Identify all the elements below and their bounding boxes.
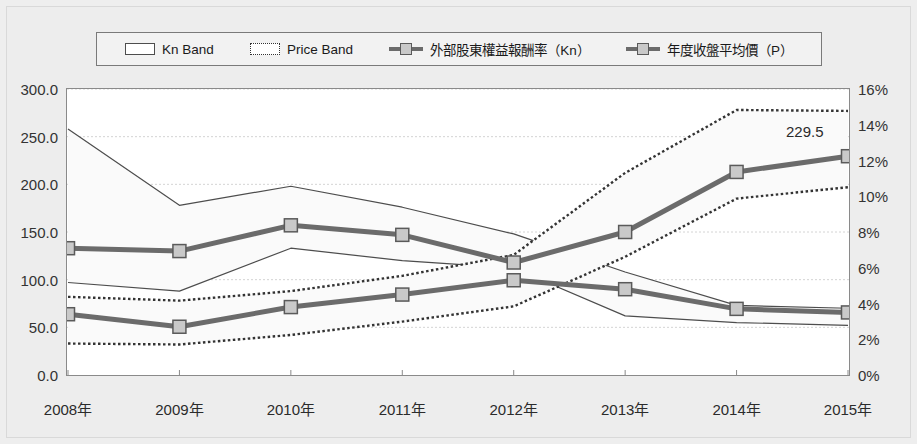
legend-label-avg-price: 年度收盤平均價（P） [667, 39, 793, 59]
line-marker-swatch-icon [389, 42, 423, 56]
kn-return-series-marker [396, 288, 409, 301]
avg-price-series-marker [173, 245, 186, 258]
avg-price-series-marker [507, 256, 520, 269]
legend-item-kn-band: Kn Band [125, 42, 214, 57]
y-axis-right-tick-label: 14% [858, 116, 906, 133]
avg-price-series-marker [284, 219, 297, 232]
x-axis-tick-label: 2008年 [13, 398, 123, 419]
kn-return-series-marker [619, 283, 632, 296]
x-axis-tick-label: 2009年 [124, 398, 234, 419]
avg-price-series-marker [67, 242, 75, 255]
x-axis-tick-label: 2010年 [236, 398, 346, 419]
y-axis-right-tick-label: 12% [858, 152, 906, 169]
kn-return-series-marker [173, 320, 186, 333]
y-axis-right-tick-label: 16% [858, 81, 906, 98]
y-axis-right-tick-label: 6% [858, 259, 906, 276]
plot-area [66, 88, 850, 376]
y-axis-left-tick-label: 50.0 [0, 319, 58, 336]
x-axis-tick-label: 2012年 [459, 398, 569, 419]
y-axis-left-tick-label: 300.0 [0, 81, 58, 98]
legend-item-kn-return: 外部股東權益報酬率（Kn） [389, 39, 590, 59]
y-axis-left-tick-label: 100.0 [0, 271, 58, 288]
data-value-annotation: 229.5 [786, 123, 824, 140]
y-axis-right-tick-label: 2% [858, 331, 906, 348]
kn-return-series-marker [842, 306, 850, 319]
band-solid-swatch-icon [125, 43, 155, 55]
chart-legend: Kn Band Price Band 外部股東權益報酬率（Kn） 年度收盤平均價… [96, 32, 822, 66]
kn-return-series-marker [507, 274, 520, 287]
legend-item-avg-price: 年度收盤平均價（P） [626, 39, 793, 59]
y-axis-right-tick-label: 4% [858, 295, 906, 312]
kn-return-series-marker [730, 302, 743, 315]
legend-label-price-band: Price Band [287, 42, 353, 57]
legend-label-kn-return: 外部股東權益報酬率（Kn） [430, 39, 590, 59]
chart-container: Kn Band Price Band 外部股東權益報酬率（Kn） 年度收盤平均價… [0, 0, 917, 444]
line-marker-swatch-icon [626, 42, 660, 56]
y-axis-left-tick-label: 0.0 [0, 367, 58, 384]
legend-item-price-band: Price Band [250, 42, 353, 57]
legend-label-kn-band: Kn Band [162, 42, 214, 57]
band-dotted-swatch-icon [250, 43, 280, 55]
y-axis-left-tick-label: 150.0 [0, 224, 58, 241]
plot-svg [67, 89, 849, 375]
y-axis-right-tick-label: 10% [858, 188, 906, 205]
x-axis-tick-label: 2014年 [682, 398, 792, 419]
x-axis-tick-label: 2011年 [347, 398, 457, 419]
y-axis-right-tick-label: 8% [858, 224, 906, 241]
y-axis-left-tick-label: 200.0 [0, 176, 58, 193]
y-axis-right-tick-label: 0% [858, 367, 906, 384]
kn-return-series-marker [284, 301, 297, 314]
avg-price-series-marker [396, 228, 409, 241]
y-axis-left-tick-label: 250.0 [0, 128, 58, 145]
x-axis-tick-label: 2015年 [793, 398, 903, 419]
x-axis-tick-label: 2013年 [570, 398, 680, 419]
kn-return-series-marker [67, 308, 75, 321]
avg-price-series-marker [619, 226, 632, 239]
avg-price-series-marker [730, 165, 743, 178]
avg-price-series-marker [842, 150, 850, 163]
